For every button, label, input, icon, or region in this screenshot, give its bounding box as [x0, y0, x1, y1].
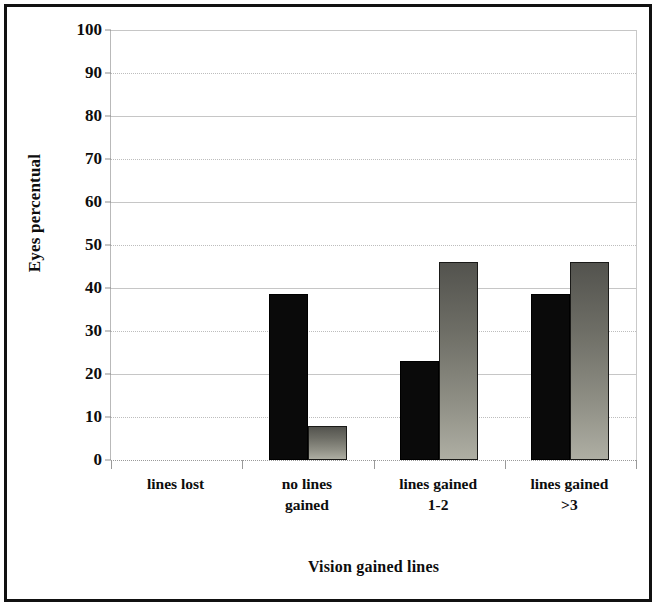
bar-group: [374, 30, 505, 460]
plot-area: 0102030405060708090100: [110, 30, 637, 460]
y-axis-tick-label: 30: [85, 321, 102, 341]
y-axis-tick-label: 20: [85, 364, 102, 384]
bar-series-1-3: [531, 294, 570, 460]
x-axis-tick-label: no linesgained: [241, 473, 372, 515]
y-axis-tick-label: 60: [85, 192, 102, 212]
bar-series-2-3: [570, 262, 609, 460]
x-axis-tick-mark: [505, 460, 506, 469]
figure-canvas: Eyes percentual 0102030405060708090100 l…: [7, 7, 649, 599]
bar-group: [242, 30, 373, 460]
y-axis-tick-label: 50: [85, 235, 102, 255]
bar-series-1-2: [400, 361, 439, 460]
y-axis-tick-label: 40: [85, 278, 102, 298]
x-axis-tick-label-line: lines gained: [373, 473, 504, 494]
x-axis-tick-label: lines gained>3: [504, 473, 635, 515]
bar-group: [505, 30, 636, 460]
x-axis-tick-label-line: >3: [504, 494, 635, 515]
figure-frame: Eyes percentual 0102030405060708090100 l…: [4, 4, 652, 602]
bar-series-2-2: [439, 262, 478, 460]
y-axis-tick-label: 10: [85, 407, 102, 427]
x-axis-tick-labels: lines lostno linesgainedlines gained1-2l…: [110, 473, 637, 533]
x-axis-tick-label-line: lines lost: [110, 473, 241, 494]
x-axis-tick-label: lines gained1-2: [373, 473, 504, 515]
y-axis-tick-label: 0: [94, 450, 103, 470]
x-axis-tick-label: lines lost: [110, 473, 241, 494]
y-axis-tick-label: 80: [85, 106, 102, 126]
bar-series-2-1: [308, 426, 347, 460]
bar-group: [111, 30, 242, 460]
x-axis-tick-label-line: 1-2: [373, 494, 504, 515]
x-axis-tick-mark: [636, 460, 637, 469]
x-axis-tick-mark: [242, 460, 243, 469]
y-axis-tick-label: 70: [85, 149, 102, 169]
x-axis-tick-mark: [374, 460, 375, 469]
y-axis-title: Eyes percentual: [25, 103, 45, 323]
x-axis-tick-mark: [111, 460, 112, 469]
y-axis-tick-label: 90: [85, 63, 102, 83]
bar-series-1-1: [269, 294, 308, 460]
y-axis-tick-label: 100: [77, 20, 103, 40]
x-axis-tick-label-line: gained: [241, 494, 372, 515]
x-axis-tick-label-line: no lines: [241, 473, 372, 494]
x-axis-tick-label-line: lines gained: [504, 473, 635, 494]
x-axis-title: Vision gained lines: [110, 558, 637, 576]
